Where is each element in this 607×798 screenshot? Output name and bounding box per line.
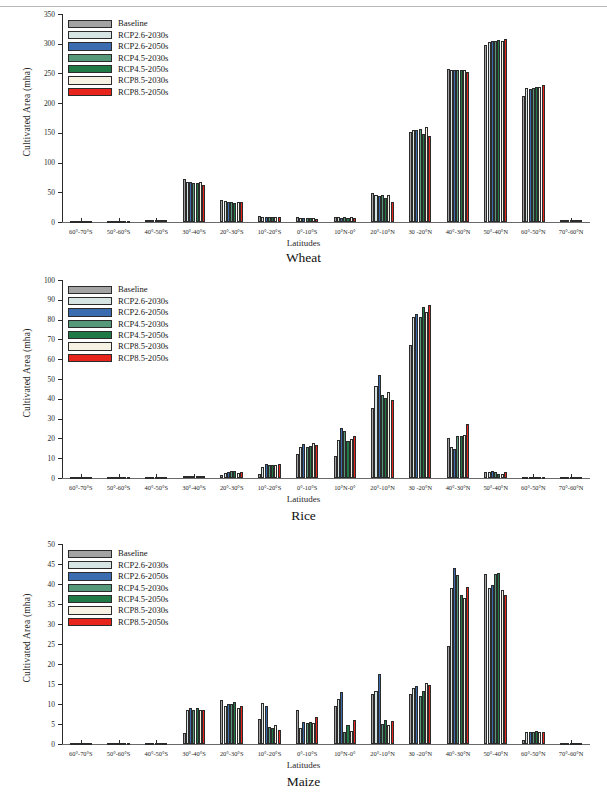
legend-swatch: [68, 320, 112, 328]
legend-swatch: [68, 308, 112, 316]
legend-swatch: [68, 286, 112, 294]
legend-label: RCP8.5-2030s: [118, 76, 168, 85]
bar: [353, 218, 356, 222]
legend-swatch: [68, 584, 112, 592]
y-tick-mark: [58, 280, 62, 281]
y-tick-label: 0: [22, 474, 55, 483]
legend-item: RCP4.5-2050s: [68, 594, 168, 605]
bar: [466, 587, 469, 744]
panel-title-maize: Maize: [0, 774, 607, 790]
legend-swatch: [68, 606, 112, 614]
legend-item: RCP2.6-2050s: [68, 307, 168, 318]
bar: [240, 202, 243, 222]
y-tick-mark: [58, 624, 62, 625]
legend-item: RCP8.5-2050s: [68, 616, 168, 627]
bar: [428, 685, 431, 744]
legend-swatch: [68, 297, 112, 305]
bar: [466, 72, 469, 222]
legend-swatch: [68, 342, 112, 350]
y-tick-mark: [58, 684, 62, 685]
bar: [240, 706, 243, 744]
bar: [315, 445, 318, 478]
y-tick-mark: [58, 44, 62, 45]
y-tick-mark: [58, 438, 62, 439]
legend-item: RCP4.5-2030s: [68, 582, 168, 593]
y-tick-mark: [58, 320, 62, 321]
legend-label: RCP2.6-2030s: [118, 297, 168, 306]
legend-swatch: [68, 76, 112, 84]
panel-title-wheat: Wheat: [0, 250, 607, 266]
bar: [202, 185, 205, 222]
legend-swatch: [68, 65, 112, 73]
bar: [579, 477, 582, 479]
bar: [278, 730, 281, 744]
legend-item: RCP2.6-2030s: [68, 29, 168, 40]
y-axis-title: Cultivated Area (mha): [22, 8, 32, 216]
legend-item: RCP2.6-2030s: [68, 295, 168, 306]
legend-swatch: [68, 550, 112, 558]
legend-label: RCP4.5-2050s: [118, 65, 168, 74]
legend-item: RCP2.6-2030s: [68, 559, 168, 570]
y-tick-mark: [58, 584, 62, 585]
legend-swatch: [68, 20, 112, 28]
bar: [428, 305, 431, 478]
y-tick-mark: [58, 704, 62, 705]
legend-item: RCP4.5-2050s: [68, 64, 168, 75]
legend-label: RCP2.6-2030s: [118, 561, 168, 570]
legend-item: Baseline: [68, 548, 168, 559]
y-tick-mark: [58, 544, 62, 545]
x-tick-label: 70°-60°N: [549, 484, 593, 491]
y-tick-mark: [58, 604, 62, 605]
y-tick-mark: [58, 564, 62, 565]
bar: [89, 221, 92, 223]
y-tick-mark: [58, 744, 62, 745]
bar: [504, 472, 507, 478]
y-tick-mark: [58, 359, 62, 360]
y-tick-mark: [58, 300, 62, 301]
bar: [391, 400, 394, 478]
bar: [164, 743, 167, 745]
x-axis-title: Latitudes: [0, 238, 607, 248]
legend-item: RCP8.5-2030s: [68, 341, 168, 352]
legend-swatch: [68, 31, 112, 39]
chart-panel-rice: 0102030405060708090100Cultivated Area (m…: [0, 270, 607, 532]
y-axis-title: Cultivated Area (mha): [22, 274, 32, 472]
bar: [202, 476, 205, 478]
y-tick-mark: [58, 724, 62, 725]
bar: [164, 220, 167, 222]
legend: BaselineRCP2.6-2030sRCP2.6-2050sRCP4.5-2…: [68, 548, 168, 628]
y-tick-mark: [58, 163, 62, 164]
bar: [164, 477, 167, 479]
y-tick-label: 0: [22, 218, 55, 227]
y-tick-mark: [58, 664, 62, 665]
legend-label: RCP2.6-2050s: [118, 42, 168, 51]
y-tick-mark: [58, 14, 62, 15]
x-axis-title: Latitudes: [0, 494, 607, 504]
legend-label: RCP8.5-2050s: [118, 88, 168, 97]
legend-label: RCP2.6-2050s: [118, 308, 168, 317]
y-tick-mark: [58, 73, 62, 74]
legend-swatch: [68, 618, 112, 626]
bar: [127, 477, 130, 479]
x-tick-label: 70°-60°N: [549, 228, 593, 235]
legend-label: RCP8.5-2050s: [118, 618, 168, 627]
legend: BaselineRCP2.6-2030sRCP2.6-2050sRCP4.5-2…: [68, 284, 168, 364]
bar: [202, 710, 205, 744]
legend-item: RCP8.5-2030s: [68, 605, 168, 616]
chart-panel-wheat: 050100150200250300350Cultivated Area (mh…: [0, 0, 607, 270]
y-tick-mark: [58, 222, 62, 223]
bar: [89, 477, 92, 479]
chart-panel-maize: 05101520253035404550Cultivated Area (mha…: [0, 532, 607, 798]
y-tick-label: 0: [22, 740, 55, 749]
legend-item: Baseline: [68, 18, 168, 29]
bar: [240, 472, 243, 478]
y-tick-mark: [58, 399, 62, 400]
legend-label: Baseline: [118, 19, 148, 28]
legend-swatch: [68, 331, 112, 339]
legend-item: RCP2.6-2050s: [68, 571, 168, 582]
x-tick-label: 70°-60°N: [549, 750, 593, 757]
legend-label: Baseline: [118, 549, 148, 558]
y-tick-mark: [58, 133, 62, 134]
legend-item: RCP8.5-2030s: [68, 75, 168, 86]
bar: [466, 424, 469, 478]
